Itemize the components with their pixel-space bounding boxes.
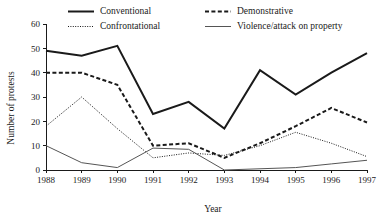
legend-item-1[interactable]: Demonstrative <box>205 6 293 16</box>
y-tick: 0 <box>36 165 47 175</box>
x-tick: 1992 <box>180 170 198 185</box>
y-tick-label: 20 <box>31 117 41 127</box>
series-line-0 <box>46 46 367 129</box>
y-tick: 50 <box>31 44 46 54</box>
y-tick: 60 <box>31 19 46 29</box>
y-tick-label: 40 <box>31 68 41 78</box>
y-tick: 10 <box>31 141 46 151</box>
y-tick-label: 10 <box>31 141 41 151</box>
y-axis-title: Number of protests <box>6 71 16 145</box>
y-axis-ticks: 0102030405060 <box>31 19 46 175</box>
x-tick-label: 1991 <box>144 175 162 185</box>
series-line-2 <box>46 97 367 158</box>
x-tick-label: 1996 <box>322 175 341 185</box>
y-tick: 40 <box>31 68 46 78</box>
x-tick: 1995 <box>287 170 306 185</box>
legend-item-3[interactable]: Violence/attack on property <box>205 21 343 31</box>
series-line-3 <box>46 146 367 170</box>
y-tick-label: 60 <box>31 19 41 29</box>
x-tick-label: 1992 <box>180 175 198 185</box>
chart-container: ConventionalDemonstrativeConfrontational… <box>0 0 380 217</box>
legend-item-2[interactable]: Confrontational <box>68 21 161 31</box>
x-tick: 1997 <box>358 170 377 185</box>
legend-label: Demonstrative <box>237 6 293 16</box>
x-tick-label: 1988 <box>37 175 56 185</box>
x-tick-label: 1995 <box>287 175 306 185</box>
line-chart: ConventionalDemonstrativeConfrontational… <box>0 0 380 217</box>
y-tick-label: 0 <box>36 165 41 175</box>
x-tick-label: 1993 <box>215 175 234 185</box>
x-tick-label: 1990 <box>108 175 127 185</box>
x-tick: 1989 <box>73 170 92 185</box>
x-tick: 1993 <box>215 170 234 185</box>
x-tick: 1994 <box>251 170 270 185</box>
legend-item-0[interactable]: Conventional <box>68 6 152 16</box>
x-tick: 1990 <box>108 170 127 185</box>
y-tick-label: 50 <box>31 44 41 54</box>
chart-legend: ConventionalDemonstrativeConfrontational… <box>68 6 343 31</box>
x-tick-label: 1997 <box>358 175 377 185</box>
x-tick: 1991 <box>144 170 162 185</box>
data-series-group <box>46 46 367 170</box>
plot-axes <box>46 24 367 170</box>
x-tick-label: 1989 <box>73 175 92 185</box>
legend-label: Violence/attack on property <box>237 21 343 31</box>
legend-label: Conventional <box>100 6 152 16</box>
x-axis-ticks: 1988198919901991199219931994199519961997 <box>37 170 377 185</box>
legend-label: Confrontational <box>100 21 161 31</box>
x-tick-label: 1994 <box>251 175 270 185</box>
x-axis-title: Year <box>204 204 222 214</box>
x-tick: 1996 <box>322 170 341 185</box>
y-tick-label: 30 <box>31 92 41 102</box>
y-tick: 30 <box>31 92 46 102</box>
y-tick: 20 <box>31 117 46 127</box>
